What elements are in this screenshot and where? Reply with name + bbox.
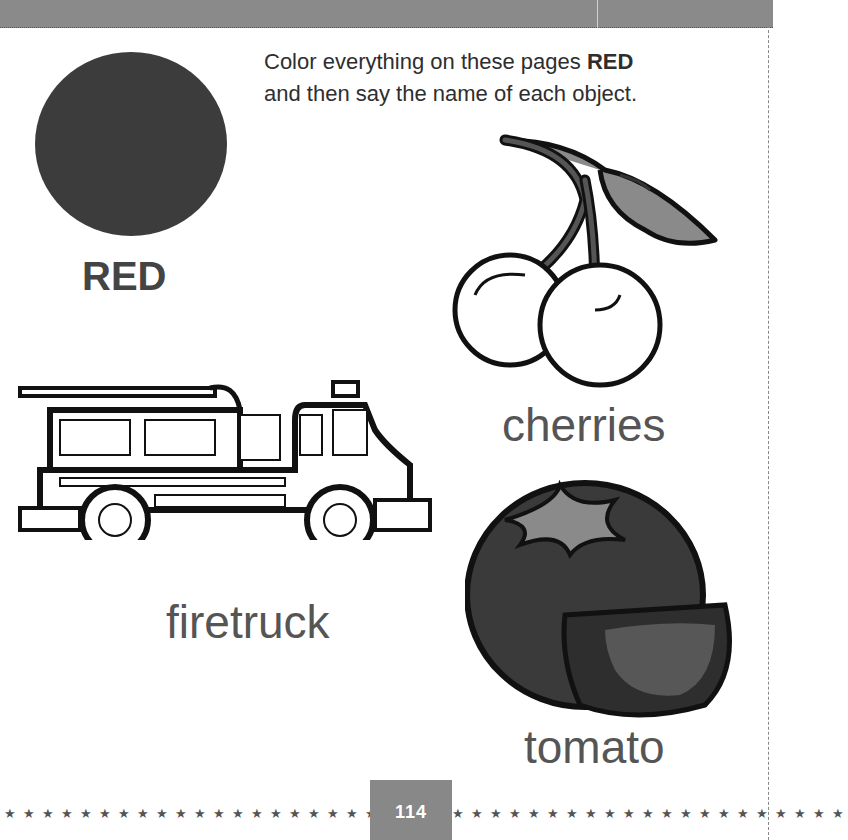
instruction-emphasis: RED xyxy=(587,49,633,74)
stars-border-right: ★★★★★★★★★★★★★★★★★★★★★ xyxy=(452,806,848,821)
instruction-text: Color everything on these pages RED and … xyxy=(264,46,637,110)
color-name-heading: RED xyxy=(82,254,166,299)
cherries-illustration[interactable] xyxy=(445,130,725,390)
instruction-prefix: Color everything on these pages xyxy=(264,49,587,74)
color-swatch-circle xyxy=(35,52,227,236)
cherries-label: cherries xyxy=(502,398,666,452)
top-header-bar xyxy=(0,0,773,28)
instruction-line2: and then say the name of each object. xyxy=(264,81,637,106)
tomato-label: tomato xyxy=(524,720,665,774)
page-number-box: 114 xyxy=(370,780,452,840)
firetruck-label: firetruck xyxy=(166,595,330,649)
page-number: 114 xyxy=(370,802,452,823)
firetruck-illustration[interactable] xyxy=(15,380,435,540)
tomato-illustration[interactable] xyxy=(465,470,745,720)
trim-line xyxy=(768,0,769,840)
